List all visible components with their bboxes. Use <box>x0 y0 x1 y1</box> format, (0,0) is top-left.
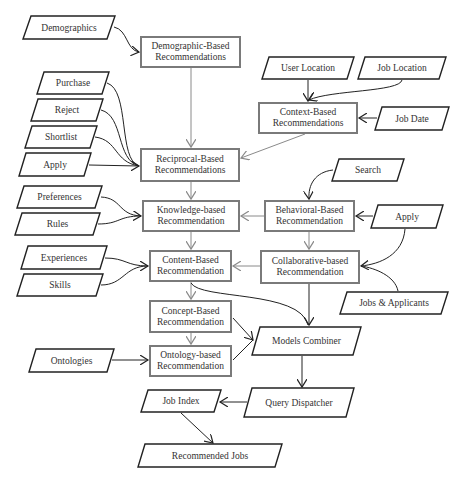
rules-input: Rules <box>14 212 101 236</box>
edge-jobindex-to-recommended <box>181 413 213 443</box>
edge-concept-to-combiner <box>233 318 253 340</box>
edge-ontology-to-combiner <box>233 340 253 360</box>
node-label: Jobs & Applicants <box>339 291 449 315</box>
demographics-input: Demographics <box>22 15 116 40</box>
edge-joblocation-to-context <box>309 80 402 100</box>
box-line: Recommendations <box>155 165 226 175</box>
edge-shortlist-to-reciprocal <box>95 137 139 166</box>
reciprocal-based-recommendations-box: Reciprocal-BasedRecommendations <box>140 148 240 182</box>
node-label: Apply <box>370 204 444 229</box>
node-label: Skills <box>16 273 104 297</box>
edge-experiences-to-content <box>105 258 148 266</box>
purchase-input: Purchase <box>36 71 110 95</box>
node-label: Models Combiner <box>251 326 362 356</box>
node-label: Reject <box>30 98 104 122</box>
ontology-based-recommendation-box: Ontology-basedRecommendation <box>149 345 232 377</box>
recommended-jobs-node: Recommended Jobs <box>137 443 283 468</box>
experiences-input: Experiences <box>20 245 108 270</box>
box-line: Concept-Based <box>161 306 219 316</box>
edge-purchase-to-reciprocal <box>107 83 139 166</box>
ontologies-input: Ontologies <box>28 348 115 373</box>
node-label: Search <box>331 158 405 182</box>
job-date-input: Job Date <box>374 106 450 131</box>
apply-input-right: Apply <box>370 204 444 229</box>
box-line: Recommendation <box>157 361 224 371</box>
box-line: Recommendation <box>157 266 224 276</box>
node-label: Ontologies <box>28 348 115 373</box>
knowledge-based-recommendation-box: Knowledge-basedRecommendation <box>142 200 240 232</box>
user-location-input: User Location <box>261 56 355 80</box>
behavioral-based-recommendation-box: Behavioral-BasedRecommendation <box>264 200 355 232</box>
box-line: Behavioral-Based <box>275 205 343 215</box>
edge-demographics-to-demographic <box>114 27 139 52</box>
node-label: Preferences <box>16 185 103 209</box>
apply-input-left: Apply <box>18 152 92 177</box>
box-line: Recommendation <box>276 267 343 277</box>
box-line: Recommendation <box>276 216 343 226</box>
box-line: Reciprocal-Based <box>156 154 224 164</box>
edge-apply-to-collaborative <box>361 229 405 266</box>
edge-preferences-to-knowledge <box>101 197 141 216</box>
edge-rules-to-knowledge <box>98 216 141 224</box>
context-based-recommendations-box: Context-BasedRecommendations <box>258 102 358 134</box>
content-based-recommendation-box: Content-BasedRecommendation <box>149 250 232 282</box>
node-label: Job Location <box>357 56 447 80</box>
models-combiner-node: Models Combiner <box>251 326 362 356</box>
box-line: Knowledge-based <box>157 205 226 215</box>
node-label: Experiences <box>20 245 108 270</box>
query-dispatcher-node: Query Dispatcher <box>243 387 355 418</box>
search-input: Search <box>331 158 405 182</box>
edge-skills-to-content <box>101 266 148 285</box>
skills-input: Skills <box>16 273 104 297</box>
node-label: Job Index <box>140 389 222 413</box>
jobs-and-applicants-input: Jobs & Applicants <box>339 291 449 315</box>
box-line: Demographic-Based <box>151 41 229 51</box>
node-label: Apply <box>18 152 92 177</box>
reject-input: Reject <box>30 98 104 122</box>
concept-based-recommendation-box: Concept-BasedRecommendation <box>149 300 232 333</box>
job-index-node: Job Index <box>140 389 222 413</box>
node-label: Recommended Jobs <box>137 443 283 468</box>
node-label: Query Dispatcher <box>243 387 355 418</box>
node-label: Purchase <box>36 71 110 95</box>
box-line: Context-Based <box>280 107 336 117</box>
edge-jobsapplicants-to-collaborative <box>361 266 398 291</box>
collaborative-based-recommendation-box: Collaborative-basedRecommendation <box>260 250 360 284</box>
job-location-input: Job Location <box>357 56 447 80</box>
box-line: Content-Based <box>162 255 218 265</box>
box-line: Recommendation <box>157 216 224 226</box>
edge-context-to-reciprocal <box>241 134 305 158</box>
edge-apply-to-reciprocal <box>89 165 139 166</box>
box-line: Collaborative-based <box>272 256 349 266</box>
box-line: Recommendations <box>273 118 344 128</box>
node-label: Job Date <box>374 106 450 131</box>
edge-reject-to-reciprocal <box>101 110 139 166</box>
box-line: Recommendations <box>155 52 226 62</box>
node-label: User Location <box>261 56 355 80</box>
node-label: Shortlist <box>24 125 98 149</box>
node-label: Demographics <box>22 15 116 40</box>
demographic-based-recommendations-box: Demographic-BasedRecommendations <box>140 36 241 68</box>
edge-search-to-behavioral <box>309 170 333 199</box>
box-line: Recommendation <box>157 317 224 327</box>
shortlist-input: Shortlist <box>24 125 98 149</box>
box-line: Ontology-based <box>160 350 221 360</box>
node-label: Rules <box>14 212 101 236</box>
preferences-input: Preferences <box>16 185 103 209</box>
recommendation-diagram: Demographic-BasedRecommendations Context… <box>0 0 462 482</box>
